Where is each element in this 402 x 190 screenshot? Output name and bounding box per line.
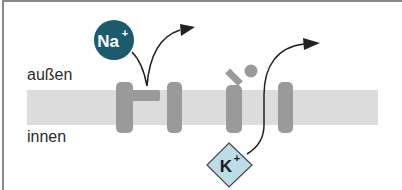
arrowhead-icon xyxy=(303,38,320,50)
sodium-flow-arrow xyxy=(132,30,180,86)
cell-membrane xyxy=(27,90,378,125)
sodium-charge: + xyxy=(122,27,128,39)
channel-gate xyxy=(130,90,160,101)
arrowhead-icon xyxy=(180,24,195,36)
sodium-symbol: Na xyxy=(97,32,119,51)
gate-knob xyxy=(245,65,258,78)
potassium-symbol: K xyxy=(220,157,233,176)
potassium-charge: + xyxy=(234,152,240,164)
sodium-ion: Na + xyxy=(94,20,134,60)
potassium-ion: K + xyxy=(207,143,252,187)
